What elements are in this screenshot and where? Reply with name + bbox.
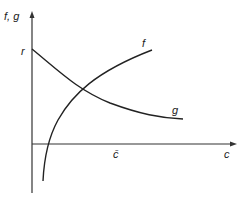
diagram-svg: f, g r f g c̄ c (0, 0, 248, 199)
r-label: r (21, 45, 26, 57)
cbar-label: c̄ (113, 148, 119, 160)
x-axis-label: c (224, 148, 230, 160)
y-axis-arrow-icon (30, 11, 35, 18)
y-axis-label: f, g (4, 10, 20, 22)
f-label: f (142, 37, 146, 49)
x-axis-arrow-icon (230, 142, 237, 147)
curve-g (32, 49, 183, 119)
curve-f (43, 50, 152, 181)
diagram: f, g r f g c̄ c (0, 0, 248, 199)
g-label: g (172, 104, 179, 116)
